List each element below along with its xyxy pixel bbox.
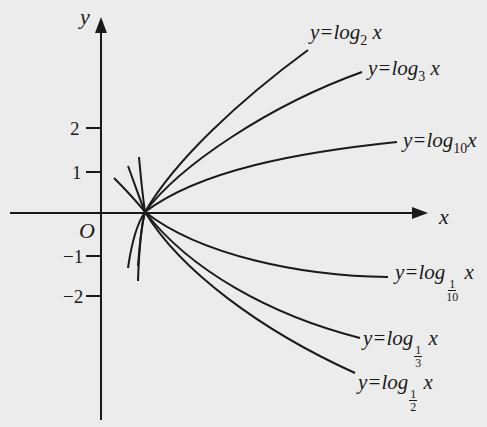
label-log10-var: x [467,128,476,152]
frac-den: 2 [410,401,416,413]
label-log1-10-var: x [465,260,474,284]
label-log3-prefix: y=log [368,56,418,80]
label-log1-3-base: 13 [414,344,422,369]
label-log1-2-prefix: y=log [358,370,408,394]
frac-den: 10 [446,291,458,303]
label-log1-10: y=log110 x [395,262,474,294]
label-log1-10-prefix: y=log [395,260,445,284]
tick-label-neg1: −1 [63,247,83,266]
label-log2-base: 2 [360,33,367,48]
curve-log3 [138,72,362,266]
label-log1-2-var: x [424,370,433,394]
curve-log10 [138,142,397,281]
x-axis-arrow-icon [412,207,428,219]
label-log1-2-base: 12 [409,388,417,413]
frac-den: 3 [415,357,421,369]
label-log3: y=log3 x [368,58,440,79]
origin-label: O [79,220,95,242]
label-log10-prefix: y=log [403,128,453,152]
label-log3-base: 3 [418,69,425,84]
label-log1-3-prefix: y=log [363,326,413,350]
label-log1-3: y=log13 x [363,328,438,360]
y-axis-arrow-icon [95,17,107,33]
label-log1-2: y=log12 x [358,372,433,404]
log-functions-diagram: y x O 2 1 −1 −2 y=log2 x y=log3 x y=log1… [0,0,487,427]
x-axis-label: x [439,206,449,228]
label-log2: y=log2 x [310,22,382,43]
label-log3-var: x [431,56,440,80]
tick-label-1: 1 [72,163,82,182]
label-log10-base: 10 [453,141,467,156]
tick-label-neg2: −2 [63,287,83,306]
tick-label-2: 2 [70,119,80,138]
y-axis-label: y [80,6,90,28]
label-log2-var: x [373,20,382,44]
curve-log1-10 [139,157,388,277]
label-log2-prefix: y=log [310,20,360,44]
label-log1-10-base: 110 [446,278,458,303]
label-log1-3-var: x [429,326,438,350]
label-log10: y=log10x [403,130,477,151]
